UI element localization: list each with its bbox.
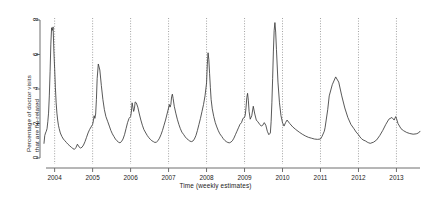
x-tick-label: 2012 [345,174,371,181]
x-axis-title: Time (weekly estimates) [0,182,431,189]
chart-figure: Percentage of doctor visits that are flu… [0,0,431,200]
x-axis-ticks [55,168,397,172]
y-tick-label: 8 [32,16,39,24]
x-tick-label: 2008 [194,174,220,181]
x-tick-label: 2004 [42,174,68,181]
x-tick-label: 2007 [156,174,182,181]
chart-plot-area [0,0,431,200]
x-tick-label: 2006 [118,174,144,181]
data-series-line [44,23,420,150]
x-tick-label: 2005 [80,174,106,181]
x-tick-label: 2013 [383,174,409,181]
y-tick-label: 4 [32,85,39,93]
x-tick-label: 2011 [307,174,333,181]
x-tick-label: 2009 [232,174,258,181]
y-tick-label: 0 [32,154,39,162]
x-tick-label: 2010 [270,174,296,181]
grid-lines [55,18,397,164]
y-tick-label: 6 [32,50,39,58]
y-tick-label: 2 [32,119,39,127]
